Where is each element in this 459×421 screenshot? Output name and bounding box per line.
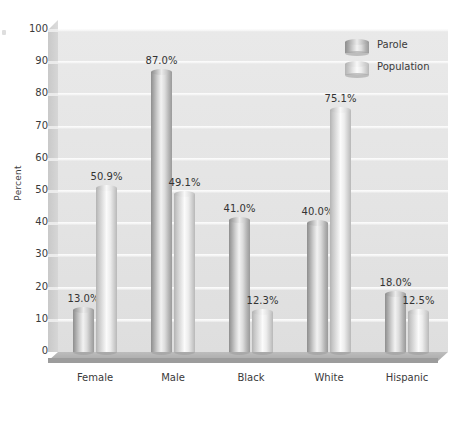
bar-top-ellipse (174, 191, 195, 197)
side-wall-step (48, 190, 58, 193)
bar-population-black[interactable] (252, 312, 273, 352)
bar-body (151, 72, 172, 352)
bar-body (229, 220, 250, 352)
side-wall-step (48, 93, 58, 96)
bar-parole-white[interactable] (307, 223, 328, 352)
bar-parole-black[interactable] (229, 220, 250, 352)
legend-label: Population (377, 61, 430, 72)
bar-body (96, 188, 117, 352)
bar-body (174, 194, 195, 352)
bar-body (330, 110, 351, 352)
x-category-label: Black (211, 372, 291, 383)
y-tick-label: 30 (18, 248, 48, 259)
bar-body (408, 312, 429, 352)
side-wall-step (48, 254, 58, 257)
side-wall-step (48, 126, 58, 129)
gridline (58, 126, 448, 129)
bar-value-label: 75.1% (321, 93, 361, 104)
bar-value-label: 41.0% (220, 203, 260, 214)
side-wall-step (48, 287, 58, 290)
bar-value-label: 18.0% (376, 277, 416, 288)
bar-value-label: 49.1% (165, 177, 205, 188)
y-tick-label: 100 (18, 23, 48, 34)
bar-value-label: 87.0% (142, 55, 182, 66)
side-wall-step (48, 319, 58, 322)
plot-side-wall (48, 30, 58, 352)
scan-edge-mark (2, 30, 6, 35)
y-tick-label: 60 (18, 152, 48, 163)
bar-value-label: 12.5% (399, 295, 439, 306)
x-category-label: White (289, 372, 369, 383)
bar-parole-male[interactable] (151, 72, 172, 352)
side-wall-step (48, 61, 58, 64)
plot-floor-edge (48, 358, 438, 363)
side-wall-step (48, 158, 58, 161)
bar-parole-female[interactable] (73, 310, 94, 352)
bar-chart: Percent 1009080706050403020100 13.0%50.9… (0, 0, 459, 421)
bar-top-ellipse (408, 309, 429, 315)
x-category-label: Female (55, 372, 135, 383)
bar-value-label: 50.9% (87, 171, 127, 182)
bar-population-female[interactable] (96, 188, 117, 352)
bar-body (252, 312, 273, 352)
bar-population-male[interactable] (174, 194, 195, 352)
x-category-label: Hispanic (367, 372, 447, 383)
y-tick-label: 40 (18, 216, 48, 227)
gridline (58, 29, 448, 32)
bar-top-ellipse (151, 69, 172, 75)
bar-value-label: 12.3% (243, 295, 283, 306)
bar-population-white[interactable] (330, 110, 351, 352)
side-wall-step (48, 222, 58, 225)
legend-label: Parole (377, 39, 408, 50)
x-category-label: Male (133, 372, 213, 383)
bar-population-hispanic[interactable] (408, 312, 429, 352)
gridline (58, 93, 448, 96)
y-tick-label: 10 (18, 313, 48, 324)
y-tick-label: 20 (18, 281, 48, 292)
bar-body (73, 310, 94, 352)
cylinder-light-icon (345, 61, 369, 76)
y-tick-label: 70 (18, 120, 48, 131)
y-tick-label: 90 (18, 55, 48, 66)
bar-body (307, 223, 328, 352)
gridline (58, 158, 448, 161)
y-tick-label: 50 (18, 184, 48, 195)
cylinder-dark-icon (345, 39, 369, 54)
y-tick-label: 80 (18, 87, 48, 98)
side-wall-step (48, 29, 58, 32)
y-tick-label: 0 (18, 345, 48, 356)
bar-top-ellipse (229, 217, 250, 223)
